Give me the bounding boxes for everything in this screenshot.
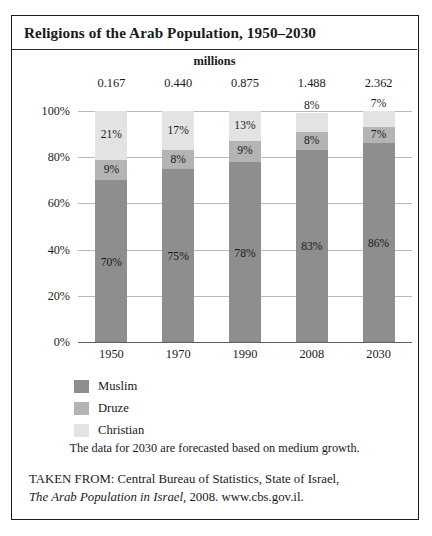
legend-label: Druze <box>98 401 129 416</box>
x-axis-tick-label: 1990 <box>210 347 280 362</box>
x-axis-tick-label: 1950 <box>76 347 146 362</box>
bar-segment-label: 7% <box>363 97 395 110</box>
chart-legend: MuslimDruzeChristian <box>74 376 144 442</box>
x-axis-tick-label: 2008 <box>277 347 347 362</box>
y-axis-tick-label: 100% <box>12 111 70 112</box>
y-axis-tick-label: 40% <box>12 250 70 251</box>
bar-total-value: 0.440 <box>145 76 212 91</box>
bar-segment-christian[interactable] <box>363 111 395 127</box>
y-axis-tick-label: 0% <box>12 342 70 343</box>
bar-segment-label: 7% <box>363 128 395 141</box>
bar-total-value: 1.488 <box>278 76 345 91</box>
source-publication-title: The Arab Population in Israel <box>29 490 183 504</box>
legend-label: Muslim <box>98 379 137 394</box>
y-axis-tick-label: 20% <box>12 296 70 297</box>
bar-segment-label: 8% <box>296 99 328 112</box>
source-lead: TAKEN FROM: Central Bureau of Statistics… <box>29 472 339 486</box>
bar-total-value: 0.167 <box>78 76 145 91</box>
legend-item-druze[interactable]: Druze <box>74 398 144 418</box>
source-tail: , 2008. www.cbs.gov.il. <box>183 490 304 504</box>
y-axis-tick-label: 80% <box>12 157 70 158</box>
bar-total-value: 0.875 <box>212 76 279 91</box>
bar-segment-label: 8% <box>162 153 194 166</box>
bar-segment-label: 75% <box>162 250 194 263</box>
bar-segment-label: 8% <box>296 134 328 147</box>
bar-segment-label: 86% <box>363 237 395 250</box>
x-axis-tick-label: 1970 <box>143 347 213 362</box>
legend-label: Christian <box>98 423 144 438</box>
bar-segment-label: 70% <box>95 256 127 269</box>
figure-frame: Religions of the Arab Population, 1950–2… <box>11 15 419 520</box>
bar-segment-christian[interactable] <box>296 113 328 131</box>
legend-swatch-christian <box>74 424 89 437</box>
bar-segment-label: 21% <box>95 128 127 141</box>
legend-item-muslim[interactable]: Muslim <box>74 376 144 396</box>
legend-swatch-muslim <box>74 380 89 393</box>
bar-segment-label: 83% <box>296 240 328 253</box>
legend-item-christian[interactable]: Christian <box>74 420 144 440</box>
bar-total-value: 2.362 <box>345 76 412 91</box>
chart-units-header: millions <box>12 54 417 69</box>
bar-segment-label: 78% <box>229 247 261 260</box>
x-axis-tick-label: 2030 <box>344 347 414 362</box>
legend-swatch-druze <box>74 402 89 415</box>
bar-segment-label: 9% <box>95 163 127 176</box>
stacked-bar-chart: millions 0%20%40%60%80%100% 0.1670.4400.… <box>12 50 417 360</box>
bar-segment-label: 9% <box>229 144 261 157</box>
chart-footnote: The data for 2030 are forecasted based o… <box>12 441 417 456</box>
source-attribution: TAKEN FROM: Central Bureau of Statistics… <box>29 471 404 506</box>
page-title: Religions of the Arab Population, 1950–2… <box>24 24 316 42</box>
bar-segment-label: 17% <box>162 124 194 137</box>
gridline-0 <box>78 342 412 343</box>
bar-segment-label: 13% <box>229 119 261 132</box>
y-axis-tick-label: 60% <box>12 203 70 204</box>
